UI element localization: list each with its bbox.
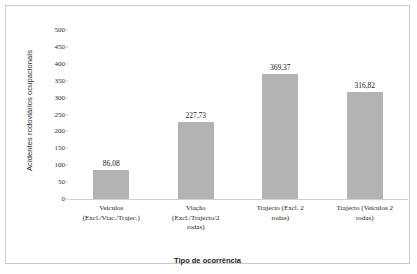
bar-value-label: 86,08 bbox=[103, 159, 120, 168]
category-axis-line bbox=[69, 199, 408, 200]
bar-value-label: 316,82 bbox=[354, 81, 375, 90]
y-axis-tick-mark bbox=[64, 131, 68, 132]
category-label-line: rodas) bbox=[234, 214, 327, 224]
x-axis-category-label: Trajecto (Excl. 2rodas) bbox=[234, 204, 327, 223]
bar[interactable] bbox=[347, 92, 383, 199]
y-axis-tick-mark bbox=[64, 46, 68, 47]
y-axis-tick-mark bbox=[64, 63, 68, 64]
y-axis-tick-mark bbox=[64, 114, 68, 115]
category-label-line: rodas) bbox=[150, 223, 243, 233]
y-axis-tick-mark bbox=[64, 97, 68, 98]
x-axis-title: Tipo de ocorrência bbox=[6, 256, 409, 265]
x-axis-category-label: Veículos(Excl./Viac./Trajec.) bbox=[65, 204, 158, 223]
category-label-line: Veículos bbox=[65, 204, 158, 214]
x-axis-category-label: Trajecto (Veículos 2rodas) bbox=[319, 204, 412, 223]
category-label-line: Trajecto (Excl. 2 bbox=[234, 204, 327, 214]
y-axis-title: Acidentes rodoviários ocupacionais bbox=[25, 26, 34, 196]
bar-value-label: 369,37 bbox=[270, 63, 291, 72]
chart-figure: Acidentes rodoviários ocupacionais 05010… bbox=[0, 0, 417, 274]
y-axis-tick-mark bbox=[64, 182, 68, 183]
category-label-line: Viação bbox=[150, 204, 243, 214]
y-axis-tick-mark bbox=[64, 199, 68, 200]
category-label-line: (Excl./Trajecto/2 bbox=[150, 214, 243, 224]
bar-value-label: 227,73 bbox=[185, 111, 206, 120]
x-axis-category-label: Viação(Excl./Trajecto/2rodas) bbox=[150, 204, 243, 233]
category-label-line: Trajecto (Veículos 2 bbox=[319, 204, 412, 214]
bar[interactable] bbox=[93, 170, 129, 199]
category-label-line: rodas) bbox=[319, 214, 412, 224]
plot-area: 05010015020025030035040045050086,08227,7… bbox=[69, 30, 407, 199]
y-axis-tick-mark bbox=[64, 30, 68, 31]
y-axis-tick-mark bbox=[64, 80, 68, 81]
category-label-line: (Excl./Viac./Trajec.) bbox=[65, 214, 158, 224]
y-axis-tick-mark bbox=[64, 148, 68, 149]
y-axis-tick-mark bbox=[64, 165, 68, 166]
bar[interactable] bbox=[178, 122, 214, 199]
chart-frame: Acidentes rodoviários ocupacionais 05010… bbox=[5, 5, 410, 264]
bar[interactable] bbox=[262, 74, 298, 199]
